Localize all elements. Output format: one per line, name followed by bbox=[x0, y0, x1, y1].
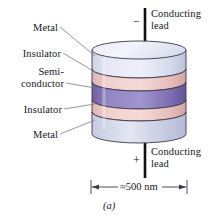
label-semiconductor-line2: conductor bbox=[0, 78, 64, 90]
label-metal-top: Metal bbox=[0, 22, 58, 34]
mos-capacitor-figure: Metal Insulator Semi- conductor Insulato… bbox=[0, 0, 212, 220]
leader-insulator-top bbox=[63, 53, 95, 72]
label-semiconductor-line1: Semi- bbox=[0, 66, 64, 78]
positive-polarity-sign: + bbox=[133, 154, 140, 166]
top-lead-label-line2: lead bbox=[151, 20, 169, 32]
top-lead-label-line1: Conducting bbox=[151, 8, 201, 20]
label-metal-bottom: Metal bbox=[0, 129, 58, 141]
bottom-lead-label-line2: lead bbox=[151, 158, 169, 170]
label-insulator-bottom: Insulator bbox=[0, 104, 62, 116]
label-insulator-top: Insulator bbox=[0, 48, 61, 60]
figure-caption: (a) bbox=[103, 200, 115, 211]
leader-metal-bottom bbox=[60, 120, 95, 134]
cylinder-top-face bbox=[92, 41, 186, 59]
dim-arrowhead-right bbox=[179, 184, 186, 189]
dim-arrowhead-left bbox=[92, 184, 99, 189]
dimension-label: ≈500 nm bbox=[120, 181, 158, 192]
bottom-lead-label-line1: Conducting bbox=[151, 146, 201, 158]
leader-metal-top bbox=[60, 27, 95, 56]
negative-polarity-sign: − bbox=[133, 15, 140, 27]
leader-semiconductor bbox=[66, 83, 95, 88]
leader-insulator-bottom bbox=[64, 104, 95, 109]
